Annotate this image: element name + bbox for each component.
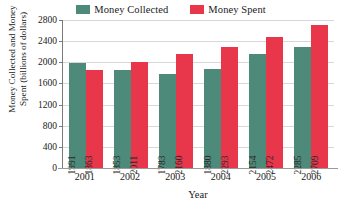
bar[interactable]: 1783: [159, 74, 176, 168]
x-axis-tick-label: 2001: [65, 171, 105, 183]
y-axis-title-line-2: Spent (billions of dollars): [18, 0, 29, 139]
x-axis-tick-labels: 200120022003200420052006: [62, 171, 334, 183]
x-axis-tick-label: 2003: [155, 171, 195, 183]
bar[interactable]: 1863: [86, 70, 103, 168]
x-axis-tick-label: 2006: [291, 171, 331, 183]
x-axis-line: [58, 168, 338, 169]
y-axis-tick-label: 1600: [38, 78, 57, 88]
bar[interactable]: 1880: [204, 69, 221, 168]
y-axis-tick-label: 2000: [38, 57, 57, 67]
legend-label: Money Spent: [208, 4, 265, 15]
legend-entry: Money Spent: [190, 4, 265, 15]
bar[interactable]: 2160: [176, 54, 193, 168]
bar-chart-figure: Money CollectedMoney Spent Money Collect…: [0, 0, 342, 210]
legend-swatch-money-collected: [76, 5, 90, 14]
bar[interactable]: 2011: [131, 62, 148, 168]
y-axis-tick-label: 400: [43, 142, 57, 152]
x-axis-tick-label: 2004: [201, 171, 241, 183]
y-axis-title-line-1: Money Collected and Money: [7, 0, 18, 139]
plot-area: 280024002000160012008004000 199118631853…: [62, 20, 334, 168]
bar[interactable]: 1991: [69, 63, 86, 168]
bar-group: 22852709: [294, 20, 328, 168]
y-axis-tick-label: 0: [52, 163, 57, 173]
bar[interactable]: 2154: [249, 54, 266, 168]
y-axis-tick-label: 2800: [38, 15, 57, 25]
bar-group: 19911863: [69, 20, 103, 168]
bar-group: 21542472: [249, 20, 283, 168]
y-axis-title: Money Collected and Money Spent (billion…: [7, 0, 29, 139]
bar[interactable]: 2293: [221, 47, 238, 168]
bar-group: 18802293: [204, 20, 238, 168]
bar[interactable]: 2472: [266, 37, 283, 168]
legend-swatch-money-spent: [190, 5, 204, 14]
bar-groups: 1991186318532011178321601880229321542472…: [63, 20, 334, 168]
chart-legend: Money CollectedMoney Spent: [0, 2, 342, 16]
bar[interactable]: 1853: [114, 70, 131, 168]
legend-label: Money Collected: [94, 4, 168, 15]
y-axis-tick-label: 800: [43, 121, 57, 131]
bar-group: 18532011: [114, 20, 148, 168]
x-axis-title: Year: [62, 189, 334, 201]
bar[interactable]: 2709: [311, 25, 328, 168]
y-axis-tick-label: 1200: [38, 100, 57, 110]
bar-group: 17832160: [159, 20, 193, 168]
x-axis-tick-label: 2005: [246, 171, 286, 183]
x-axis-tick-label: 2002: [110, 171, 150, 183]
legend-entry: Money Collected: [76, 4, 168, 15]
bar[interactable]: 2285: [294, 47, 311, 168]
y-axis-tick-label: 2400: [38, 36, 57, 46]
